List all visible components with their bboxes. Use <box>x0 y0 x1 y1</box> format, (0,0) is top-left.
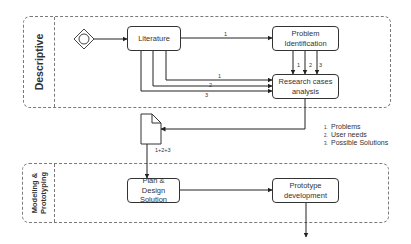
edge-label-lit-research-2: 2 <box>209 82 212 88</box>
edge-label-prob-research-3: 3 <box>319 62 322 68</box>
lane-header-descriptive: Descriptive <box>24 17 55 107</box>
task-literature[interactable]: Literature <box>127 26 181 51</box>
edge-label-prob-research-1: 1 <box>297 62 300 68</box>
lane-header-modeling: Modeling & Prototyping <box>23 164 55 222</box>
task-prototype-development[interactable]: Prototype development <box>272 178 339 203</box>
document-icon <box>141 114 161 144</box>
edge-label-prob-research-2: 2 <box>309 62 312 68</box>
edge-label-lit-research-1: 1 <box>218 73 221 79</box>
lane-label-descriptive: Descriptive <box>33 34 45 91</box>
edge-label-document: 1+2+3 <box>155 147 171 153</box>
legend-item: 1.Problems <box>324 123 388 131</box>
legend-item: 3.Possible Solutions <box>324 139 388 147</box>
lane-label-modeling: Modeling & Prototyping <box>30 172 48 214</box>
task-research-cases-analysis[interactable]: Research cases analysis <box>272 74 339 99</box>
legend: 1.Problems 2.User needs 3.Possible Solut… <box>324 123 388 148</box>
legend-item: 2.User needs <box>324 131 388 139</box>
task-plan-design-solution[interactable]: Plan & Design Solution <box>127 178 180 203</box>
task-problem-identification[interactable]: Problem Identification <box>272 26 339 51</box>
edge-label-lit-problem: 1 <box>224 31 227 37</box>
edge-label-lit-research-3: 3 <box>205 92 208 98</box>
